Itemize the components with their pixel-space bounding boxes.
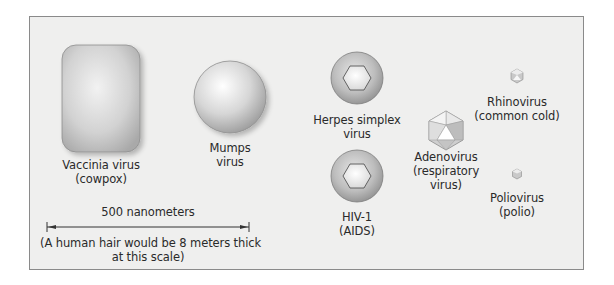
poliovirus-shape: [513, 169, 522, 179]
scale-note: (A human hair would be 8 meters thick at…: [40, 236, 256, 264]
mumps-label: Mumps virus: [195, 141, 265, 169]
adenovirus-shape: [429, 111, 463, 150]
poliovirus-name: Poliovirus: [477, 191, 557, 205]
scale-note-line2: at this scale): [40, 250, 256, 264]
herpes-virus-shape: [331, 52, 383, 104]
mumps-name: Mumps: [195, 141, 265, 155]
rhinovirus-common-name: (common cold): [472, 109, 562, 123]
rhinovirus-name: Rhinovirus: [472, 95, 562, 109]
vaccinia-label: Vaccinia virus (cowpox): [51, 158, 151, 186]
adenovirus-label: Adenovirus (respiratory virus): [406, 150, 486, 192]
rhinovirus-shape: [511, 69, 523, 83]
adenovirus-name: Adenovirus: [406, 150, 486, 164]
adenovirus-common-name-line3: virus): [406, 178, 486, 192]
hiv-common-name: (AIDS): [322, 224, 392, 238]
mumps-name-line2: virus: [195, 155, 265, 169]
hiv-label: HIV-1 (AIDS): [322, 210, 392, 238]
vaccinia-common-name: (cowpox): [51, 172, 151, 186]
vaccinia-name: Vaccinia virus: [51, 158, 151, 172]
vaccinia-virus-shape: [62, 45, 140, 152]
mumps-virus-shape: [194, 61, 266, 133]
adenovirus-common-name: (respiratory: [406, 164, 486, 178]
hiv-name: HIV-1: [322, 210, 392, 224]
herpes-label: Herpes simplex virus: [302, 113, 412, 141]
hiv-virus-shape: [331, 150, 383, 202]
poliovirus-common-name: (polio): [477, 205, 557, 219]
scale-bar-label: 500 nanometers: [88, 205, 208, 219]
scale-bar: [47, 222, 249, 232]
rhinovirus-label: Rhinovirus (common cold): [472, 95, 562, 123]
herpes-name-line2: virus: [302, 127, 412, 141]
herpes-name: Herpes simplex: [302, 113, 412, 127]
poliovirus-label: Poliovirus (polio): [477, 191, 557, 219]
scale-note-line1: (A human hair would be 8 meters thick: [40, 236, 256, 250]
